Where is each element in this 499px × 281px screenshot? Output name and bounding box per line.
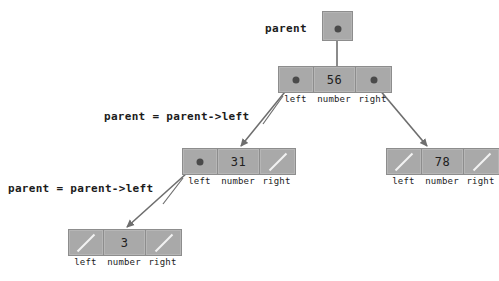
node3-caption-number: number	[103, 257, 145, 267]
node78-number-cell: 78	[422, 149, 464, 174]
node3-left-pointer-cell	[69, 230, 104, 255]
node78-caption-number: number	[421, 176, 463, 186]
parent-variable-label: parent	[265, 22, 307, 35]
node3-right-pointer-cell	[146, 230, 181, 255]
node31-right-pointer-cell	[260, 149, 295, 174]
node31-left-pointer-dot	[197, 158, 204, 165]
node3-caption-right: right	[145, 257, 180, 267]
root-caption-right: right	[355, 94, 390, 104]
parent-pointer-dot	[334, 26, 341, 33]
annotation-parent-assign-2: parent = parent->left	[8, 182, 153, 195]
node31-number-value: 31	[231, 155, 246, 169]
node78-caption-left: left	[386, 176, 421, 186]
node78-captions: left number right	[386, 176, 498, 186]
root-number-value: 56	[327, 73, 342, 87]
diagram-canvas: parent 56 left number right 31 left num	[0, 0, 499, 281]
tree-node-root: 56	[278, 66, 392, 93]
tree-node-3: 3	[68, 229, 182, 256]
node78-left-null-slash-icon	[395, 152, 413, 170]
node3-captions: left number right	[68, 257, 180, 267]
node3-right-null-slash-icon	[154, 233, 172, 251]
annot-2-leader	[163, 178, 183, 204]
root-left-pointer-dot	[293, 76, 300, 83]
node3-number-cell: 3	[104, 230, 146, 255]
tree-node-78: 78	[386, 148, 499, 175]
node31-captions: left number right	[182, 176, 294, 186]
node31-caption-right: right	[259, 176, 294, 186]
node78-number-value: 78	[435, 155, 450, 169]
root-caption-left: left	[278, 94, 313, 104]
root-right-pointer-cell	[356, 67, 391, 92]
node31-caption-number: number	[217, 176, 259, 186]
root-right-pointer-dot	[370, 76, 377, 83]
root-caption-number: number	[313, 94, 355, 104]
node78-right-null-slash-icon	[472, 152, 490, 170]
root-left-pointer-cell	[279, 67, 314, 92]
node31-left-pointer-cell	[183, 149, 218, 174]
tree-node-31: 31	[182, 148, 296, 175]
node31-caption-left: left	[182, 176, 217, 186]
root-number-cell: 56	[314, 67, 356, 92]
node78-left-pointer-cell	[387, 149, 422, 174]
node31-number-cell: 31	[218, 149, 260, 174]
root-captions: left number right	[278, 94, 390, 104]
node3-caption-left: left	[68, 257, 103, 267]
annotation-parent-assign-1: parent = parent->left	[104, 110, 249, 123]
parent-variable-box	[322, 11, 353, 41]
node78-right-pointer-cell	[464, 149, 499, 174]
node78-caption-right: right	[463, 176, 498, 186]
node3-number-value: 3	[121, 236, 129, 250]
node3-left-null-slash-icon	[77, 233, 95, 251]
node31-right-null-slash-icon	[268, 152, 286, 170]
